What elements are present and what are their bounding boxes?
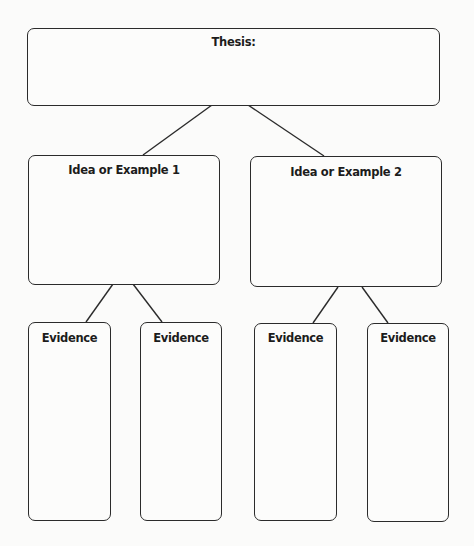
evidence-box-1[interactable]: Evidence [28, 322, 111, 521]
evidence-label-3: Evidence [255, 331, 336, 345]
connector-idea-2-to-evidence-4 [362, 287, 388, 323]
connector-idea-2-to-evidence-3 [313, 287, 338, 323]
idea-box-2[interactable]: Idea or Example 2 [250, 156, 442, 287]
idea-box-1[interactable]: Idea or Example 1 [28, 155, 220, 285]
evidence-label-2: Evidence [141, 331, 221, 345]
connector-thesis-to-idea-2 [248, 105, 324, 156]
connector-thesis-to-idea-1 [143, 105, 212, 155]
evidence-box-4[interactable]: Evidence [367, 323, 449, 522]
connector-idea-1-to-evidence-1 [86, 284, 113, 322]
evidence-label-4: Evidence [368, 331, 448, 345]
connector-idea-1-to-evidence-2 [133, 284, 162, 322]
evidence-label-1: Evidence [29, 331, 110, 345]
idea-label-2: Idea or Example 2 [251, 165, 441, 179]
thesis-box[interactable]: Thesis: [27, 28, 440, 106]
idea-label-1: Idea or Example 1 [29, 163, 219, 177]
thesis-label: Thesis: [28, 35, 439, 49]
graphic-organizer: Thesis: Idea or Example 1 Idea or Exampl… [0, 0, 474, 546]
evidence-box-2[interactable]: Evidence [140, 322, 222, 521]
evidence-box-3[interactable]: Evidence [254, 323, 337, 521]
